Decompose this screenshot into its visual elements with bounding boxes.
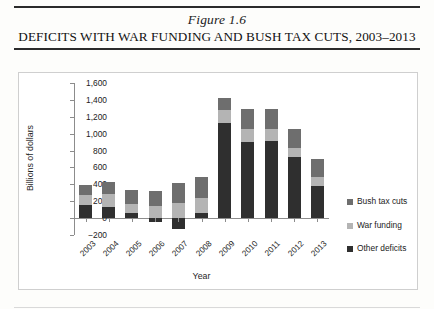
x-tick-mark xyxy=(225,218,226,222)
x-tick-label-2004: 2004 xyxy=(101,239,120,258)
x-tick-mark xyxy=(271,218,272,222)
x-tick-label-2010: 2010 xyxy=(240,239,259,258)
legend-swatch-icon xyxy=(347,223,353,229)
legend-swatch-icon xyxy=(347,199,353,205)
bar-segment-war-funding xyxy=(311,177,324,186)
bar-2006 xyxy=(149,83,162,235)
x-tick-mark xyxy=(202,218,203,222)
y-axis-title: Billions of dollars xyxy=(25,118,35,198)
chart-legend: Bush tax cutsWar fundingOther deficits xyxy=(347,197,413,268)
bar-segment-bush-tax-cuts xyxy=(195,177,208,198)
legend-item-bush-tax-cuts[interactable]: Bush tax cuts xyxy=(347,197,413,207)
y-tick-mark xyxy=(70,184,74,185)
bar-2011 xyxy=(265,83,278,235)
legend-label: Bush tax cuts xyxy=(357,197,407,207)
x-tick-label-2003: 2003 xyxy=(78,239,97,258)
figure-number: Figure 1.6 xyxy=(14,12,420,28)
x-tick-mark xyxy=(109,218,110,222)
bar-segment-war-funding xyxy=(79,195,92,204)
x-tick-mark xyxy=(155,218,156,222)
bar-segment-bush-tax-cuts xyxy=(241,109,254,128)
bar-segment-war-funding xyxy=(218,110,231,123)
x-tick-label-2008: 2008 xyxy=(194,239,213,258)
bar-segment-war-funding xyxy=(125,204,138,213)
x-tick-label-2005: 2005 xyxy=(124,239,143,258)
figure-title: DEFICITS WITH WAR FUNDING AND BUSH TAX C… xyxy=(14,29,420,45)
legend-item-war-funding[interactable]: War funding xyxy=(347,221,413,231)
figure-header: Figure 1.6 DEFICITS WITH WAR FUNDING AND… xyxy=(14,6,420,50)
bar-segment-bush-tax-cuts xyxy=(79,185,92,195)
x-axis-title: Year xyxy=(74,271,329,281)
y-tick-mark xyxy=(70,218,74,219)
x-tick-mark xyxy=(248,218,249,222)
bar-2007 xyxy=(172,83,185,235)
x-tick-label-2011: 2011 xyxy=(263,239,282,258)
bar-segment-war-funding xyxy=(265,129,278,142)
bar-segment-bush-tax-cuts xyxy=(125,190,138,204)
legend-swatch-icon xyxy=(347,246,353,252)
bar-segment-bush-tax-cuts xyxy=(218,98,231,110)
bar-2009 xyxy=(218,83,231,235)
bar-segment-bush-tax-cuts xyxy=(172,183,185,203)
legend-label: Other deficits xyxy=(357,244,406,254)
bar-2003 xyxy=(79,83,92,235)
bar-2008 xyxy=(195,83,208,235)
x-tick-mark xyxy=(178,218,179,222)
chart-frame: −20002004006008001,0001,2001,4001,600 20… xyxy=(18,72,418,290)
y-tick-mark xyxy=(70,100,74,101)
header-rule-bottom xyxy=(14,48,420,50)
bar-2012 xyxy=(288,83,301,235)
bar-segment-war-funding xyxy=(241,129,254,143)
header-rule-top xyxy=(14,6,420,8)
bar-segment-other-deficits xyxy=(265,141,278,218)
bar-2005 xyxy=(125,83,138,235)
bar-segment-bush-tax-cuts xyxy=(288,129,301,148)
bar-segment-war-funding xyxy=(149,206,162,218)
bar-segment-other-deficits xyxy=(218,123,231,218)
bar-segment-war-funding xyxy=(288,148,301,157)
y-tick-mark xyxy=(70,134,74,135)
x-tick-label-2013: 2013 xyxy=(310,239,329,258)
bar-2004 xyxy=(102,83,115,235)
bar-segment-bush-tax-cuts xyxy=(149,191,162,206)
y-tick-mark xyxy=(70,235,74,236)
bar-segment-other-deficits xyxy=(288,157,301,218)
plot-area: −20002004006008001,0001,2001,4001,600 20… xyxy=(74,83,329,235)
source-note-rule xyxy=(14,307,420,308)
bar-segment-other-deficits xyxy=(241,142,254,218)
y-tick-mark xyxy=(70,201,74,202)
bar-segment-other-deficits xyxy=(79,205,92,219)
x-tick-label-2012: 2012 xyxy=(287,239,306,258)
bar-2013 xyxy=(311,83,324,235)
y-tick-mark xyxy=(70,151,74,152)
y-tick-mark xyxy=(70,167,74,168)
x-tick-mark xyxy=(294,218,295,222)
y-tick-mark xyxy=(70,117,74,118)
x-tick-label-2009: 2009 xyxy=(217,239,236,258)
bar-segment-bush-tax-cuts xyxy=(265,109,278,128)
bar-segment-war-funding xyxy=(195,198,208,213)
x-tick-mark xyxy=(86,218,87,222)
y-tick-mark xyxy=(70,83,74,84)
x-tick-label-2006: 2006 xyxy=(147,239,166,258)
bar-segment-other-deficits xyxy=(102,207,115,218)
x-tick-mark xyxy=(132,218,133,222)
x-tick-mark xyxy=(317,218,318,222)
legend-item-other-deficits[interactable]: Other deficits xyxy=(347,244,413,254)
x-tick-label-2007: 2007 xyxy=(171,239,190,258)
bar-2010 xyxy=(241,83,254,235)
bar-segment-war-funding xyxy=(172,203,185,218)
bar-segment-war-funding xyxy=(102,194,115,207)
legend-label: War funding xyxy=(357,221,402,231)
bar-segment-bush-tax-cuts xyxy=(102,182,115,195)
bar-segment-other-deficits xyxy=(311,186,324,218)
bar-segment-bush-tax-cuts xyxy=(311,159,324,177)
